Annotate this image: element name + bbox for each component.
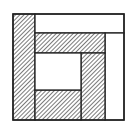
right-strip	[105, 33, 124, 120]
inner-right-strip	[81, 53, 105, 120]
left-strip	[13, 14, 35, 120]
inner-bottom-strip	[35, 90, 81, 120]
diagram-regions	[13, 14, 124, 120]
nested-squares-diagram	[0, 0, 130, 131]
center-square	[35, 53, 81, 90]
inner-top-strip	[35, 33, 105, 53]
top-strip	[35, 14, 124, 33]
